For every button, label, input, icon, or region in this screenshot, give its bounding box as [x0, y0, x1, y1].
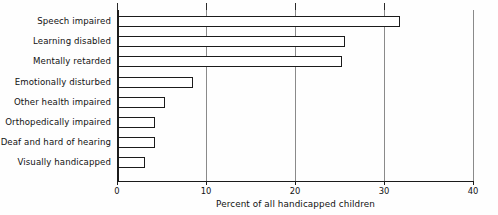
plot-area [117, 10, 473, 181]
bar [117, 117, 155, 128]
bar [117, 97, 165, 108]
top-tick-30 [384, 3, 385, 10]
x-tick-label: 0 [102, 186, 132, 196]
x-tick-label: 10 [191, 186, 221, 196]
bar [117, 16, 400, 27]
category-label: Deaf and hard of hearing [0, 137, 114, 147]
category-label: Mentally retarded [0, 56, 114, 66]
bar [117, 157, 145, 168]
x-axis-title: Percent of all handicapped children [117, 199, 474, 209]
category-label: Learning disabled [0, 36, 114, 46]
x-tick-mark-30 [384, 181, 385, 185]
gridline-30 [384, 10, 385, 181]
x-tick-mark-20 [295, 181, 296, 185]
x-tick-label: 40 [458, 186, 488, 196]
x-tick-mark-10 [206, 181, 207, 185]
gridline-40 [473, 10, 474, 181]
top-tick-10 [206, 3, 207, 10]
bar [117, 36, 345, 47]
x-tick-label: 20 [280, 186, 310, 196]
category-label: Visually handicapped [0, 157, 114, 167]
top-tick-20 [295, 3, 296, 10]
bar [117, 137, 155, 148]
category-label: Other health impaired [0, 97, 114, 107]
y-axis-line [117, 10, 119, 182]
x-tick-mark-40 [473, 181, 474, 185]
category-label: Speech impaired [0, 16, 114, 26]
bar [117, 56, 342, 67]
x-tick-label: 30 [369, 186, 399, 196]
category-axis-labels: Speech impairedLearning disabledMentally… [0, 0, 114, 215]
x-tick-mark-0 [117, 181, 118, 185]
bar-chart: Speech impairedLearning disabledMentally… [0, 0, 498, 215]
category-label: Emotionally disturbed [0, 77, 114, 87]
top-tick-0 [117, 3, 118, 10]
bar [117, 77, 193, 88]
category-label: Orthopedically impaired [0, 117, 114, 127]
